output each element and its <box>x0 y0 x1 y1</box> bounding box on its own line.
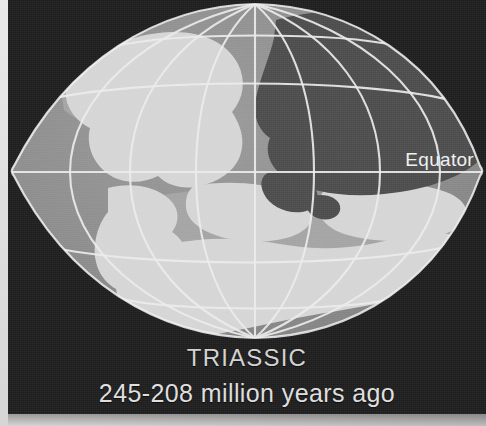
globe-body <box>8 0 486 342</box>
figure-caption: TRIASSIC 245-208 million years ago <box>8 336 486 414</box>
period-time-range: 245-208 million years ago <box>8 372 486 408</box>
figure-plate: Equator TRIASSIC 245-208 million years a… <box>8 0 486 414</box>
globe-grain <box>8 0 486 342</box>
paleogeography-figure: Equator TRIASSIC 245-208 million years a… <box>0 0 486 426</box>
period-name: TRIASSIC <box>8 336 486 372</box>
equator-label: Equator <box>405 149 474 170</box>
globe-svg: Equator <box>8 0 486 342</box>
globe-illustration: Equator <box>8 0 486 342</box>
